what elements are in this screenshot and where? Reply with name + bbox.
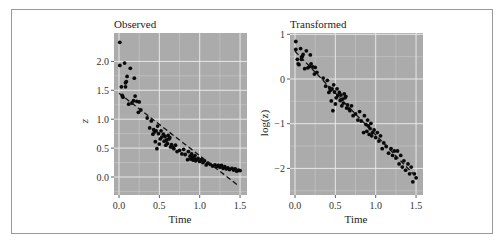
- data-point: [118, 64, 122, 68]
- data-point: [321, 76, 325, 80]
- data-point: [238, 169, 242, 173]
- data-point: [159, 129, 163, 133]
- y-tick-label: 2.0: [97, 56, 110, 67]
- y-tick-label: 1: [280, 29, 285, 40]
- data-point: [124, 80, 128, 84]
- data-point: [358, 110, 362, 114]
- data-point: [324, 84, 328, 88]
- data-point: [299, 47, 303, 51]
- data-point: [315, 70, 319, 74]
- data-point: [155, 147, 159, 151]
- data-point: [166, 142, 170, 146]
- data-point: [174, 143, 178, 147]
- y-tick-label: 0.0: [97, 172, 110, 183]
- data-point: [375, 131, 379, 135]
- data-point: [313, 66, 317, 70]
- data-point: [148, 126, 152, 130]
- y-tick-label: 0: [280, 74, 285, 85]
- data-point: [172, 147, 176, 151]
- panel-observed: 0.00.51.01.50.00.51.01.52.0 Observed Tim…: [78, 18, 247, 225]
- x-tick-label: 0.5: [153, 200, 166, 211]
- y-tick-label: −2: [274, 163, 285, 174]
- panel-title-observed: Observed: [114, 18, 157, 30]
- data-point: [186, 158, 190, 162]
- data-point: [363, 114, 367, 118]
- y-tick-label: −1: [274, 118, 285, 129]
- data-point: [120, 85, 124, 89]
- x-tick-label: 1.0: [193, 200, 206, 211]
- data-point: [128, 66, 132, 70]
- data-point: [404, 168, 408, 172]
- data-point: [400, 165, 404, 169]
- y-tick-label: 0.5: [97, 143, 110, 154]
- data-point: [411, 180, 415, 184]
- data-point: [379, 134, 383, 138]
- data-point: [342, 101, 346, 105]
- data-point: [123, 61, 127, 65]
- data-point: [406, 162, 410, 166]
- x-tick-label: 0.5: [329, 200, 342, 211]
- data-point: [391, 154, 395, 158]
- panel-title-transformed: Transformed: [290, 18, 347, 30]
- data-point: [296, 57, 300, 61]
- data-point: [366, 118, 370, 122]
- data-point: [304, 49, 308, 53]
- data-point: [370, 134, 374, 138]
- data-point: [125, 75, 129, 79]
- data-point: [365, 129, 369, 133]
- data-point: [294, 40, 298, 44]
- data-point: [409, 165, 413, 169]
- data-point: [297, 63, 301, 67]
- data-point: [193, 154, 197, 158]
- y-axis-label-observed: z: [78, 118, 90, 124]
- data-point: [137, 100, 141, 104]
- data-point: [369, 121, 373, 125]
- data-point: [332, 83, 336, 87]
- x-axis-label-transformed: Time: [345, 213, 368, 225]
- data-point: [294, 48, 298, 52]
- data-point: [335, 87, 339, 91]
- data-point: [408, 172, 412, 176]
- x-tick-label: 0.0: [289, 200, 302, 211]
- data-point: [334, 102, 338, 106]
- x-axis-label-observed: Time: [169, 213, 192, 225]
- data-point: [132, 76, 136, 80]
- data-point: [356, 118, 360, 122]
- data-point: [331, 109, 335, 113]
- data-point: [180, 152, 184, 156]
- y-tick-label: 1.0: [97, 114, 110, 125]
- data-point: [157, 142, 161, 146]
- data-point: [124, 85, 128, 89]
- data-point: [133, 94, 137, 98]
- data-point: [325, 78, 329, 82]
- data-point: [178, 149, 182, 153]
- data-point: [183, 153, 187, 157]
- x-tick-label: 1.5: [410, 200, 423, 211]
- data-point: [387, 151, 391, 155]
- data-point: [399, 154, 403, 158]
- data-point: [157, 132, 161, 136]
- x-tick-label: 1.5: [234, 200, 247, 211]
- data-point: [329, 99, 333, 103]
- x-tick-label: 1.0: [369, 200, 382, 211]
- x-tick-label: 0.0: [113, 200, 126, 211]
- y-axis-label-transformed: log(z): [258, 110, 271, 137]
- data-point: [153, 140, 157, 144]
- plot-area-observed: [114, 33, 247, 195]
- figure: 0.00.51.01.50.00.51.01.52.0 Observed Tim…: [0, 0, 501, 245]
- data-point: [303, 67, 307, 71]
- y-tick-label: 1.5: [97, 85, 110, 96]
- panel-transformed: 0.00.51.01.5−2−101 Transformed Time log(…: [258, 18, 423, 225]
- data-point: [397, 162, 401, 166]
- data-point: [118, 40, 122, 44]
- data-point: [372, 128, 376, 132]
- data-point: [145, 116, 149, 120]
- data-point: [380, 147, 384, 151]
- data-point: [301, 53, 305, 57]
- data-point: [344, 95, 348, 99]
- data-point: [182, 147, 186, 151]
- data-point: [374, 136, 378, 140]
- data-point: [132, 99, 136, 103]
- data-point: [396, 149, 400, 153]
- data-point: [187, 150, 191, 154]
